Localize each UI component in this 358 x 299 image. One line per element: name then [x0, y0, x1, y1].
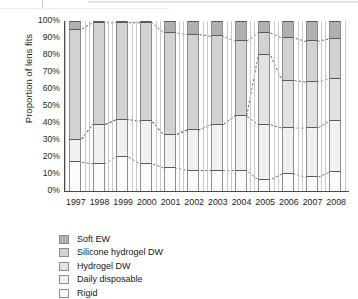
x-tick-label: 2001	[161, 197, 181, 207]
column-separator	[179, 21, 180, 191]
bar-column	[324, 21, 348, 191]
bar-column	[230, 21, 254, 191]
bar-segment	[164, 135, 176, 168]
bar-column	[88, 21, 112, 191]
bar-segment	[329, 39, 341, 79]
column-separator	[227, 21, 228, 191]
bar-segment	[187, 130, 199, 171]
column-separator	[321, 21, 322, 191]
bar-segment	[258, 55, 270, 125]
legend-swatch-icon	[59, 248, 69, 257]
legend-swatch-icon	[59, 262, 69, 271]
bar-segment	[306, 177, 318, 191]
bar-segment	[329, 79, 341, 122]
bar-column	[182, 21, 206, 191]
bar-segment	[211, 36, 223, 124]
bar-segment	[211, 21, 223, 36]
column-separator	[278, 21, 279, 191]
column-separator	[112, 21, 113, 191]
y-tick-label: 80%	[43, 50, 60, 59]
bar-segment	[258, 33, 270, 55]
y-tick-label: 30%	[43, 135, 60, 144]
bar-segment	[164, 168, 176, 191]
bar-column	[159, 21, 183, 191]
x-tick-label: 1998	[90, 197, 110, 207]
legend-item[interactable]: Daily disposable	[59, 273, 299, 286]
bar-segment	[140, 164, 152, 191]
column-separator	[136, 21, 137, 191]
bar-segment	[235, 116, 247, 170]
bar-segment	[258, 180, 270, 191]
x-tick-label: 2007	[303, 197, 323, 207]
bar-segment	[140, 23, 152, 122]
x-tick-label: 2000	[137, 197, 157, 207]
bar-segment	[116, 23, 128, 120]
legend-item[interactable]: Silicone hydrogel DW	[59, 246, 299, 259]
bar-segment	[282, 174, 294, 191]
column-separator	[203, 21, 204, 191]
legend-label: Soft EW	[77, 233, 110, 246]
bar-column	[135, 21, 159, 191]
y-tick-label: 50%	[43, 101, 60, 110]
bar-segment	[282, 38, 294, 81]
y-tick-label: 40%	[43, 118, 60, 127]
bar-segment	[164, 33, 176, 135]
bar-segment	[69, 162, 81, 191]
legend-swatch-icon	[59, 289, 69, 298]
bar-segment	[116, 157, 128, 191]
plot-axis-bottom	[64, 191, 349, 192]
column-separator	[65, 21, 66, 191]
y-axis-tick-labels: 100%90%80%70%60%50%40%30%20%10%0%	[22, 11, 60, 201]
bar-segment	[93, 23, 105, 125]
column-separator	[298, 21, 299, 191]
bar-segment	[306, 82, 318, 128]
column-separator	[156, 21, 157, 191]
bar-segment	[282, 81, 294, 129]
legend-item[interactable]: Hydrogel DW	[59, 260, 299, 273]
bar-segment	[258, 21, 270, 33]
column-separator	[325, 21, 326, 191]
bar-column	[301, 21, 325, 191]
bar-segment	[306, 21, 318, 41]
column-separator	[85, 21, 86, 191]
legend-label: Rigid	[77, 287, 98, 299]
bar-segment	[93, 164, 105, 191]
y-tick-label: 20%	[43, 152, 60, 161]
bar-segment	[69, 30, 81, 141]
column-separator	[89, 21, 90, 191]
bar-column	[64, 21, 88, 191]
legend-swatch-icon	[59, 275, 69, 284]
chart-legend: Soft EWSilicone hydrogel DWHydrogel DWDa…	[59, 233, 299, 299]
column-separator	[132, 21, 133, 191]
top-band-right-rule	[88, 1, 358, 3]
bar-column	[206, 21, 230, 191]
x-tick-label: 2008	[326, 197, 346, 207]
column-separator	[345, 21, 346, 191]
page-top-band	[0, 0, 358, 11]
bar-column	[253, 21, 277, 191]
column-separator	[302, 21, 303, 191]
bar-segment	[235, 171, 247, 191]
legend-swatch-icon	[59, 235, 69, 244]
bar-segment	[187, 35, 199, 130]
bar-segment	[116, 120, 128, 157]
y-tick-label: 70%	[43, 67, 60, 76]
x-tick-label: 2002	[184, 197, 204, 207]
x-tick-label: 2005	[255, 197, 275, 207]
legend-item[interactable]: Soft EW	[59, 233, 299, 246]
legend-item[interactable]: Rigid	[59, 287, 299, 299]
column-separator	[231, 21, 232, 191]
bar-segment	[329, 121, 341, 172]
y-tick-label: 60%	[43, 84, 60, 93]
bar-segment	[258, 125, 270, 180]
legend-label: Daily disposable	[77, 273, 143, 286]
x-tick-label: 2004	[232, 197, 252, 207]
column-separator	[254, 21, 255, 191]
bar-segment	[187, 21, 199, 35]
legend-label: Hydrogel DW	[77, 260, 131, 273]
bar-segment	[329, 172, 341, 191]
plot-area	[64, 21, 348, 191]
column-separator	[207, 21, 208, 191]
column-separator	[250, 21, 251, 191]
chart-figure: Proportion of lens fits 100%90%80%70%60%…	[0, 11, 358, 299]
